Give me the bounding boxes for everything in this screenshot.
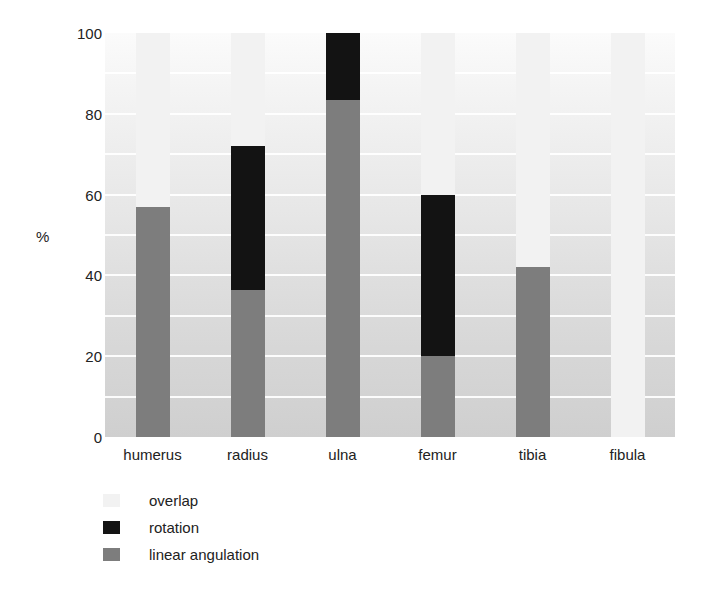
x-axis-tick-radius: radius [200, 443, 295, 467]
bar-slot-fibula [580, 33, 675, 437]
bar-slot-femur [390, 33, 485, 437]
y-axis-tick-60: 60 [85, 186, 102, 203]
y-axis-tick-labels: 100806040200 [60, 33, 102, 437]
bar-segment-femur-linear-angulation[interactable] [421, 356, 455, 437]
bar-segment-radius-linear-angulation[interactable] [231, 290, 265, 437]
stacked-bar-chart-figure: % 100806040200 humerusradiusulnafemurtib… [0, 0, 704, 596]
legend-swatch-linear-angulation [103, 548, 120, 561]
bar-humerus[interactable] [136, 33, 170, 437]
bar-ulna[interactable] [326, 33, 360, 437]
bar-segment-femur-rotation[interactable] [421, 195, 455, 357]
bar-segment-tibia-linear-angulation[interactable] [516, 267, 550, 437]
bar-femur[interactable] [421, 33, 455, 437]
bar-slot-radius [200, 33, 295, 437]
bar-segment-ulna-linear-angulation[interactable] [326, 100, 360, 437]
legend-item-rotation[interactable]: rotation [103, 514, 423, 541]
bar-tibia[interactable] [516, 33, 550, 437]
plot-area [105, 33, 675, 437]
bar-slot-ulna [295, 33, 390, 437]
chart-legend: overlaprotationlinear angulation [103, 487, 423, 568]
x-axis-tick-ulna: ulna [295, 443, 390, 467]
bar-segment-humerus-overlap[interactable] [136, 33, 170, 207]
legend-label-overlap: overlap [149, 492, 198, 509]
x-axis-tick-femur: femur [390, 443, 485, 467]
bar-segment-radius-rotation[interactable] [231, 146, 265, 289]
bar-segment-humerus-linear-angulation[interactable] [136, 207, 170, 437]
legend-label-rotation: rotation [149, 519, 199, 536]
bar-segment-femur-overlap[interactable] [421, 33, 455, 195]
y-axis-tick-100: 100 [77, 25, 102, 42]
y-axis-tick-20: 20 [85, 348, 102, 365]
x-axis-tick-humerus: humerus [105, 443, 200, 467]
bar-segment-radius-overlap[interactable] [231, 33, 265, 146]
bar-radius[interactable] [231, 33, 265, 437]
legend-item-overlap[interactable]: overlap [103, 487, 423, 514]
legend-swatch-overlap [103, 494, 120, 507]
legend-swatch-rotation [103, 521, 120, 534]
bar-group [105, 33, 675, 437]
x-axis-tick-labels: humerusradiusulnafemurtibiafibula [105, 443, 675, 467]
x-axis-tick-tibia: tibia [485, 443, 580, 467]
y-axis-title: % [36, 228, 50, 245]
bar-slot-tibia [485, 33, 580, 437]
y-axis-tick-80: 80 [85, 105, 102, 122]
y-axis-tick-0: 0 [94, 429, 102, 446]
bar-segment-tibia-overlap[interactable] [516, 33, 550, 267]
legend-item-linear-angulation[interactable]: linear angulation [103, 541, 423, 568]
bar-fibula[interactable] [611, 33, 645, 437]
bar-segment-ulna-rotation[interactable] [326, 33, 360, 100]
x-axis-tick-fibula: fibula [580, 443, 675, 467]
legend-label-linear-angulation: linear angulation [149, 546, 259, 563]
bar-segment-fibula-overlap[interactable] [611, 33, 645, 437]
y-axis-tick-40: 40 [85, 267, 102, 284]
bar-slot-humerus [105, 33, 200, 437]
